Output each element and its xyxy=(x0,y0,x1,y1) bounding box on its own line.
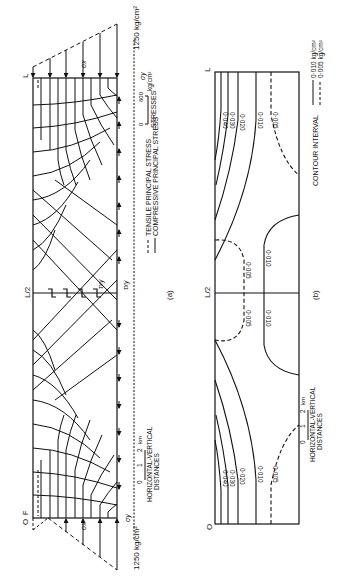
sigma-y-bottom-label: σy xyxy=(124,514,132,522)
svg-text:0·040: 0·040 xyxy=(222,112,229,129)
svg-text:DISTANCES: DISTANCES xyxy=(316,413,323,450)
svg-text:0·010: 0·010 xyxy=(265,310,272,327)
tau-xy-inner-label: τxy xyxy=(97,279,105,289)
sigma-x-arrows-bottom xyxy=(66,519,117,570)
marker-O-b: O xyxy=(205,524,214,530)
legend-a: TENSILE PRINCIPAL STRESS COMPRESSIVE PRI… xyxy=(145,116,159,253)
svg-text:2: 2 xyxy=(136,448,143,452)
distance-scale-b: 0 1 2 km HORIZONTAL-VERTICAL DISTANCES xyxy=(299,386,323,462)
caption-b: (b) xyxy=(311,290,320,300)
svg-text:0·005: 0·005 xyxy=(245,262,252,279)
svg-text:0·005: 0·005 xyxy=(245,310,252,327)
svg-text:0·005: 0·005 xyxy=(272,112,279,129)
svg-text:0·010: 0·010 xyxy=(257,112,264,129)
legend-compressive: COMPRESSIVE PRINCIPAL STRESS xyxy=(152,116,159,236)
svg-text:0·030: 0·030 xyxy=(229,470,236,487)
load-envelope-top xyxy=(33,24,117,67)
contour-interval-legend: CONTOUR INTERVAL 0·010 kg/cm² 0·005 kg/c… xyxy=(310,39,325,186)
principal-stress-trajectories xyxy=(33,78,117,518)
figure-canvas: L O F σx σx L/2 τxy τxy 1250 kg/cm² σy 1… xyxy=(0,0,349,579)
load-top-label: 1250 kg/cm² xyxy=(132,6,141,50)
midspan-label-a: L/2 xyxy=(23,286,32,298)
svg-text:0: 0 xyxy=(299,440,306,444)
svg-text:0·040: 0·040 xyxy=(222,470,229,487)
svg-text:0·020: 0·020 xyxy=(239,468,246,485)
marker-O-a: O xyxy=(21,519,30,525)
contour-dashed-label: 0·005 kg/cm² xyxy=(317,39,325,78)
midspan-label-b: L/2 xyxy=(203,286,212,298)
svg-text:0: 0 xyxy=(136,480,143,484)
legend-tensile: TENSILE PRINCIPAL STRESS xyxy=(145,138,152,236)
svg-text:600: 600 xyxy=(138,91,144,102)
panel-b: 0·040 0·030 0·020 0·010 0·005 0·040 0·03… xyxy=(203,39,325,530)
shear-stress-contours xyxy=(215,72,299,524)
svg-text:2: 2 xyxy=(299,409,306,413)
svg-text:0·030: 0·030 xyxy=(229,112,236,129)
beam-b-outline xyxy=(215,72,299,524)
svg-text:kg/cm²: kg/cm² xyxy=(146,71,154,91)
marker-L-b: L xyxy=(203,67,212,72)
load-bottom-label: 1250 kg/cm² xyxy=(132,526,141,570)
svg-text:0·010: 0·010 xyxy=(265,250,272,267)
distance-scale-a: 0 1 2 km HORIZONTAL-VERTICAL DISTANCES xyxy=(136,426,160,502)
svg-text:0: 0 xyxy=(138,122,144,126)
svg-text:1: 1 xyxy=(136,463,143,467)
tau-xy-outer-label: τxy xyxy=(122,280,130,290)
sigma-x-arrows-top xyxy=(33,24,117,77)
svg-text:km: km xyxy=(300,397,306,405)
svg-text:0·005: 0·005 xyxy=(272,466,279,483)
marker-F-a: F xyxy=(22,511,29,515)
svg-text:0·010: 0·010 xyxy=(257,466,264,483)
contour-labels: 0·040 0·030 0·020 0·010 0·005 0·040 0·03… xyxy=(222,112,279,487)
svg-text:HORIZONTAL-VERTICAL: HORIZONTAL-VERTICAL xyxy=(146,426,153,502)
marker-L-a: L xyxy=(21,73,30,78)
caption-a: (a) xyxy=(165,290,174,300)
svg-text:0·020: 0·020 xyxy=(239,114,246,131)
sigma-x-bottom-label: σx xyxy=(80,522,87,530)
sigma-x-top-label: σx xyxy=(80,60,87,68)
panel-a: L O F σx σx L/2 τxy τxy 1250 kg/cm² σy 1… xyxy=(21,6,174,570)
svg-text:1: 1 xyxy=(299,424,306,428)
contour-interval-label: CONTOUR INTERVAL xyxy=(312,115,319,186)
svg-text:DISTANCES: DISTANCES xyxy=(153,453,160,490)
svg-text:km: km xyxy=(137,436,143,444)
svg-text:HORIZONTAL-VERTICAL: HORIZONTAL-VERTICAL xyxy=(309,386,316,462)
